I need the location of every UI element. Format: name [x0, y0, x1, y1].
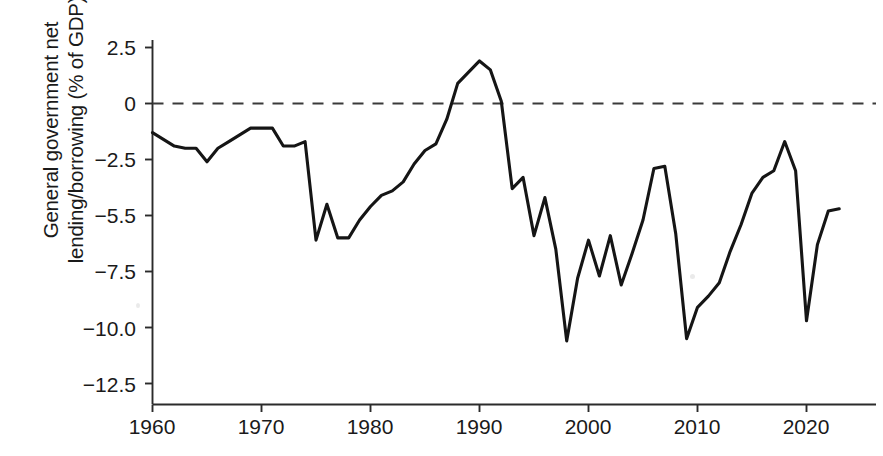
scan-artifact — [136, 303, 140, 308]
x-tick-label-4: 2000 — [553, 416, 623, 437]
y-tick-label-5: −10.0 — [83, 318, 136, 339]
x-tick-label-6: 2020 — [771, 416, 841, 437]
y-tick-label-3: −5.5 — [95, 205, 136, 226]
y-tick-label-6: −12.5 — [83, 374, 136, 395]
x-tick-label-2: 1980 — [335, 416, 405, 437]
y-tick-marks — [145, 48, 153, 384]
axes-group — [153, 40, 877, 405]
scan-artifact — [690, 274, 695, 279]
x-tick-label-1: 1970 — [226, 416, 296, 437]
y-tick-label-1: 0 — [124, 93, 136, 114]
x-tick-label-5: 2010 — [662, 416, 732, 437]
chart-figure: General government net lending/borrowing… — [0, 0, 883, 456]
x-tick-label-3: 1990 — [444, 416, 514, 437]
y-tick-label-0: 2.5 — [107, 37, 136, 58]
y-tick-label-2: −2.5 — [95, 149, 136, 170]
y-tick-label-group: 2.5 0 −2.5 −5.5 −7.5 −10.0 −12.5 — [0, 0, 136, 456]
x-tick-marks — [153, 405, 807, 413]
y-tick-label-4: −7.5 — [95, 261, 136, 282]
x-tick-label-0: 1960 — [117, 416, 187, 437]
